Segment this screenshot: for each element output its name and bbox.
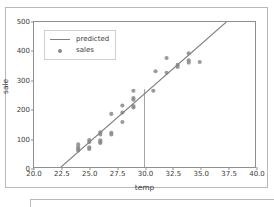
y-axis-tick-label: 400 — [17, 48, 30, 55]
y-axis-tick-mark — [31, 51, 34, 52]
scatter-point-sales — [109, 132, 113, 136]
x-axis-tick-label: 25.0 — [82, 171, 98, 178]
y-axis-tick-mark — [31, 80, 34, 81]
x-axis-tick-mark — [145, 167, 146, 170]
scatter-point-sales — [198, 60, 202, 64]
x-axis-tick-label: 22.5 — [54, 171, 70, 178]
x-axis-tick-label: 32.5 — [166, 171, 182, 178]
x-axis-tick-mark — [117, 167, 118, 170]
scatter-point-sales — [153, 69, 157, 73]
x-axis-tick-label: 35.0 — [193, 171, 209, 178]
y-axis-tick-label: 100 — [17, 136, 30, 143]
legend-line-swatch-icon — [49, 39, 71, 40]
plot-area: predicted sales 010020030040050020.022.5… — [33, 21, 256, 168]
x-axis-tick-label: 37.5 — [221, 171, 237, 178]
x-axis-tick-mark — [34, 167, 35, 170]
x-axis-label: temp — [33, 183, 256, 192]
y-axis-label: sale — [1, 79, 10, 94]
scatter-point-sales — [87, 147, 91, 151]
x-axis-tick-label: 30.0 — [138, 171, 154, 178]
screenshot-root: sale temp predicted sales 01002003004005… — [0, 0, 274, 207]
scatter-point-sales — [98, 141, 102, 145]
legend-item-sales: sales — [49, 45, 109, 56]
x-axis-tick-label: 40.0 — [249, 171, 265, 178]
y-axis-tick-mark — [31, 139, 34, 140]
scatter-point-sales — [165, 56, 169, 60]
scatter-point-sales — [187, 61, 191, 65]
x-axis-tick-mark — [201, 167, 202, 170]
scatter-point-sales — [109, 112, 113, 116]
y-axis-tick-mark — [31, 22, 34, 23]
x-axis-tick-label: 20.0 — [26, 171, 42, 178]
adjacent-panel-edge — [30, 199, 274, 207]
y-axis-tick-label: 300 — [17, 77, 30, 84]
scatter-point-sales — [131, 105, 135, 109]
x-axis-tick-mark — [89, 167, 90, 170]
x-axis-tick-mark — [61, 167, 62, 170]
scatter-point-sales — [131, 98, 135, 102]
scatter-point-sales — [120, 103, 124, 107]
legend-label-sales: sales — [76, 47, 94, 54]
legend-label-predicted: predicted — [76, 36, 109, 43]
y-axis-tick-mark — [31, 110, 34, 111]
chart-legend: predicted sales — [44, 30, 116, 60]
x-axis-tick-mark — [229, 167, 230, 170]
x-axis-tick-mark — [173, 167, 174, 170]
scatter-point-sales — [131, 89, 135, 93]
x-axis-tick-label: 27.5 — [110, 171, 126, 178]
legend-marker-swatch-icon — [49, 49, 71, 53]
scatter-point-sales — [120, 120, 124, 124]
legend-item-predicted: predicted — [49, 34, 109, 45]
scatter-chart-figure: sale temp predicted sales 01002003004005… — [5, 7, 268, 188]
x-axis-tick-mark — [257, 167, 258, 170]
scatter-point-sales — [151, 89, 155, 93]
y-axis-tick-label: 200 — [17, 107, 30, 114]
y-axis-tick-label: 500 — [17, 19, 30, 26]
